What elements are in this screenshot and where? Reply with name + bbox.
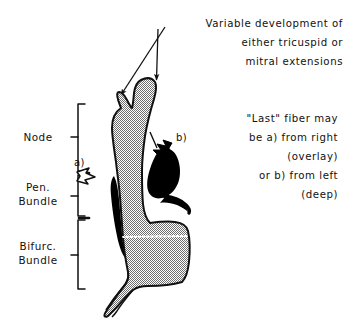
label-node: Node [23, 131, 52, 143]
right-note-line3: (overlay) [287, 151, 338, 162]
bundle-branch-divider [122, 236, 189, 237]
top-note-line2: either tricuspid or [242, 37, 344, 48]
right-note-line2: be a) from right [249, 132, 338, 143]
label-pen-bundle-line2: Bundle [18, 195, 57, 207]
label-pen-bundle-line1: Pen. [26, 181, 50, 193]
conduction-axis-diagram: Node Pen. Bundle Bifurc. Bundle Variable… [0, 0, 348, 327]
right-note-line1: "Last" fiber may [247, 113, 338, 124]
marker-a-label: a) [74, 157, 85, 168]
label-bifurc-bundle-line2: Bundle [18, 254, 57, 266]
top-note-line3: mitral extensions [245, 56, 343, 67]
label-bifurc-bundle-line1: Bifurc. [20, 240, 57, 252]
right-note-line4: or b) from left [259, 170, 338, 181]
right-note-line5: (deep) [301, 189, 338, 200]
marker-b-label: b) [176, 132, 187, 143]
top-note-line1: Variable development of [206, 18, 343, 29]
